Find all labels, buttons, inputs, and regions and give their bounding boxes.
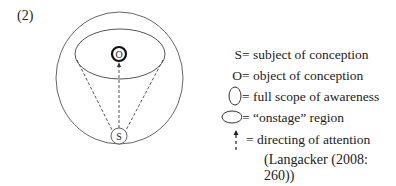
legend-item-scope: = full scope of awareness — [222, 86, 379, 107]
legend: S= subject of conception O= object of co… — [222, 44, 379, 149]
horizontal-ellipse-icon — [220, 109, 242, 125]
object-label: O — [115, 49, 122, 60]
vertical-ellipse-icon — [226, 86, 242, 106]
citation: (Langacker (2008: 260)) — [264, 152, 396, 184]
legend-item-onstage: = “onstage” region — [222, 107, 379, 128]
legend-item-subject: S= subject of conception — [222, 44, 379, 65]
subject-label: S — [116, 131, 122, 142]
legend-item-attention: = directing of attention — [222, 128, 379, 149]
conception-diagram: O S — [0, 0, 200, 186]
legend-item-object: O= object of conception — [222, 65, 379, 86]
dashed-arrow-icon — [230, 128, 242, 152]
